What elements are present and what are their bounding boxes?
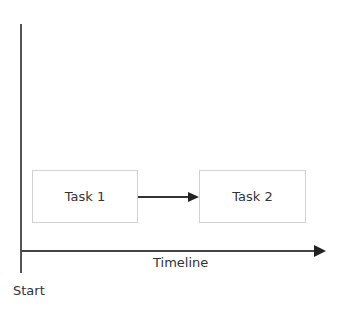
vertical-axis-line [20, 24, 22, 273]
timeline-axis-line [21, 250, 317, 252]
connector-arrowhead-icon [188, 192, 199, 202]
task-1-label: Task 1 [65, 189, 105, 204]
task-1-box: Task 1 [32, 170, 138, 223]
timeline-label: Timeline [153, 255, 208, 270]
start-label: Start [13, 283, 45, 298]
task-2-label: Task 2 [232, 189, 272, 204]
task-connector-arrow [138, 196, 190, 198]
timeline-arrowhead-icon [314, 245, 326, 257]
task-2-box: Task 2 [199, 170, 306, 223]
